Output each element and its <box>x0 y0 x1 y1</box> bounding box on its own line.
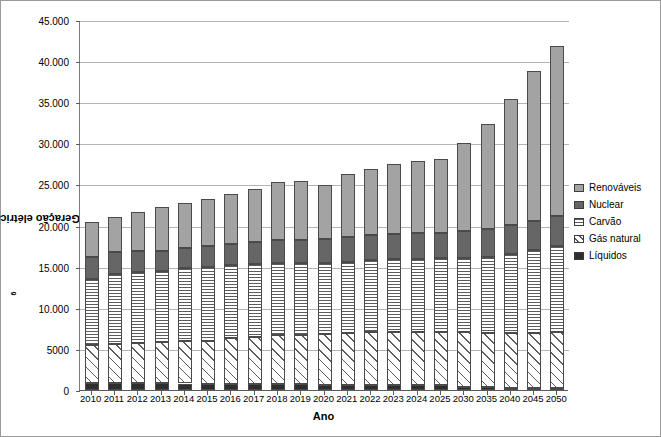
bar-segment-liquidos <box>387 385 401 390</box>
bar-segment-renovaveis <box>294 181 308 240</box>
bar-segment-gas <box>481 333 495 387</box>
y-axis-tick <box>76 350 80 351</box>
bar-segment-renovaveis <box>178 203 192 248</box>
y-axis-tick-label: 35.000 <box>38 98 69 109</box>
bar-2014 <box>178 20 192 390</box>
legend-label: Renováveis <box>589 182 641 193</box>
bar-segment-gas <box>434 332 448 386</box>
bar-segment-nuclear <box>294 240 308 263</box>
legend-item-carvao: Carvão <box>574 213 660 230</box>
bar-segment-carvao <box>178 268 192 341</box>
bar-segment-renovaveis <box>271 182 285 241</box>
bar-2018 <box>271 20 285 390</box>
x-axis-tick-label: 2014 <box>173 393 194 404</box>
x-axis-tick-label: 2017 <box>243 393 264 404</box>
bar-segment-renovaveis <box>504 99 518 225</box>
bar-segment-nuclear <box>434 233 448 259</box>
y-axis-tick-label: 45.000 <box>38 16 69 27</box>
bar-2013 <box>155 20 169 390</box>
bar-segment-renovaveis <box>108 217 122 252</box>
bar-2010 <box>85 20 99 390</box>
y-axis-tick <box>76 227 80 228</box>
bar-segment-liquidos <box>504 388 518 390</box>
bar-segment-renovaveis <box>364 169 378 236</box>
bar-segment-liquidos <box>341 385 355 390</box>
bar-segment-gas <box>85 345 99 382</box>
bar-segment-gas <box>131 343 145 383</box>
bar-segment-gas <box>550 332 564 388</box>
x-axis-tick-label: 2023 <box>383 393 404 404</box>
bar-segment-carvao <box>131 272 145 343</box>
bar-segment-liquidos <box>131 383 145 390</box>
legend-item-nuclear: Nuclear <box>574 196 660 213</box>
bar-segment-liquidos <box>434 385 448 390</box>
bar-segment-gas <box>387 332 401 385</box>
bar-segment-carvao <box>155 271 169 343</box>
x-axis-tick-label: 2025 <box>429 393 450 404</box>
legend-swatch-carvao-icon <box>574 218 584 226</box>
legend: RenováveisNuclearCarvãoGás naturalLíquid… <box>574 179 660 264</box>
x-axis-tick-label: 2022 <box>359 393 380 404</box>
bar-segment-carvao <box>341 262 355 334</box>
y-axis-tick-label: 20.000 <box>38 221 69 232</box>
bar-segment-liquidos <box>108 383 122 390</box>
bar-segment-renovaveis <box>248 189 262 242</box>
y-axis-tick-label: 40.000 <box>38 57 69 68</box>
y-axis-tick <box>76 309 80 310</box>
bar-segment-renovaveis <box>434 159 448 232</box>
legend-swatch-nuclear-icon <box>574 201 584 209</box>
bar-segment-renovaveis <box>131 212 145 251</box>
bar-segment-renovaveis <box>527 71 541 221</box>
bar-segment-carvao <box>224 265 238 338</box>
x-axis-tick-label: 2015 <box>196 393 217 404</box>
bar-segment-carvao <box>481 257 495 333</box>
bar-segment-carvao <box>85 279 99 345</box>
bar-segment-carvao <box>248 264 262 336</box>
y-axis-tick-labels: 0500010.00015.00020.00025.00030.00035.00… <box>1 21 75 391</box>
bar-segment-gas <box>224 338 238 384</box>
bar-segment-carvao <box>294 263 308 335</box>
bar-2040 <box>504 20 518 390</box>
bar-segment-nuclear <box>155 251 169 271</box>
bar-2030 <box>457 20 471 390</box>
bar-segment-nuclear <box>318 239 332 263</box>
x-axis-tick-label: 2018 <box>266 393 287 404</box>
legend-swatch-renovaveis-icon <box>574 184 584 192</box>
bar-segment-liquidos <box>178 384 192 390</box>
bar-segment-liquidos <box>271 384 285 390</box>
x-axis-tick-label: 2050 <box>546 393 567 404</box>
bar-segment-gas <box>248 337 262 385</box>
bar-segment-nuclear <box>108 252 122 274</box>
bar-segment-renovaveis <box>550 46 564 216</box>
bar-segment-carvao <box>550 246 564 332</box>
bar-segment-renovaveis <box>387 164 401 234</box>
bar-segment-nuclear <box>341 237 355 261</box>
legend-swatch-liquidos-icon <box>574 252 584 260</box>
y-axis-tick <box>76 21 80 22</box>
chart-frame: Geração elétrica mundial x106 kWh 050001… <box>0 0 661 437</box>
bar-2012 <box>131 20 145 390</box>
x-axis-tick-label: 2035 <box>476 393 497 404</box>
legend-swatch-gas-icon <box>574 235 584 243</box>
x-axis-title: Ano <box>79 410 568 422</box>
y-axis-tick <box>76 185 80 186</box>
bar-segment-carvao <box>271 263 285 335</box>
bar-segment-liquidos <box>411 385 425 390</box>
y-axis-tick <box>76 268 80 269</box>
bar-segment-renovaveis <box>318 185 332 240</box>
y-axis-tick-label: 0 <box>63 386 69 397</box>
bar-segment-nuclear <box>248 242 262 264</box>
bar-segment-gas <box>318 334 332 384</box>
bar-segment-nuclear <box>504 225 518 254</box>
bar-segment-nuclear <box>481 229 495 257</box>
bar-segment-gas <box>294 335 308 384</box>
plot-area <box>79 21 568 391</box>
bar-segment-carvao <box>364 260 378 332</box>
bar-segment-liquidos <box>85 383 99 390</box>
bar-segment-liquidos <box>224 384 238 390</box>
bar-2050 <box>550 20 564 390</box>
x-axis-tick-label: 2040 <box>499 393 520 404</box>
bar-segment-gas <box>108 344 122 383</box>
bar-segment-renovaveis <box>85 222 99 257</box>
bar-2011 <box>108 20 122 390</box>
